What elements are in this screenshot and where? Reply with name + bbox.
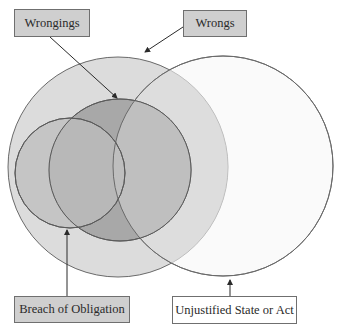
unjustified-state-or-act-label: Unjustified State or Act: [172, 296, 297, 324]
breach-of-obligation-label: Breach of Obligation: [14, 296, 130, 323]
wrongs-label: Wrongs: [183, 10, 247, 37]
venn-diagram: [0, 0, 339, 335]
wrongings-label: Wrongings: [14, 9, 90, 37]
wrongs-arrow: [145, 27, 183, 52]
breach-circle: [15, 118, 125, 228]
